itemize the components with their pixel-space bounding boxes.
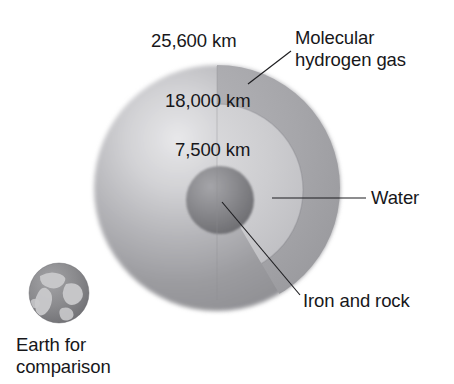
earth-globe [29,263,89,323]
diagram-canvas: 25,600 km 18,000 km 7,500 km Molecularhy… [0,0,454,384]
label-layer-molecular-hydrogen: Molecularhydrogen gas [295,27,406,71]
label-earth-comparison-line1: Earth for [16,334,86,355]
label-core-radius: 7,500 km [175,139,250,161]
label-middle-radius: 18,000 km [165,90,251,112]
label-layer-water: Water [371,187,419,209]
label-outer-radius: 25,600 km [151,30,237,52]
label-layer-molecular-hydrogen-line1: Molecular [295,27,374,48]
label-layer-molecular-hydrogen-line2: hydrogen gas [295,49,406,70]
label-earth-comparison-line2: comparison [16,356,111,377]
label-earth-comparison: Earth forcomparison [16,334,111,378]
earth-landmass [30,299,40,308]
label-layer-iron-rock: Iron and rock [303,290,410,312]
